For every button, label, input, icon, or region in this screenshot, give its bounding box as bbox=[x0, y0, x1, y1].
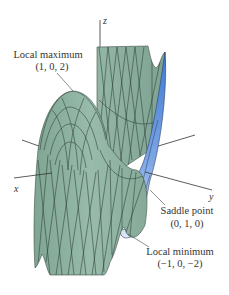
y-axis-label: y bbox=[208, 191, 214, 202]
surface-plot-svg: z x y Local maximum (1, 0, 2) Saddle poi… bbox=[0, 0, 229, 295]
saddle-point-label: Saddle point bbox=[161, 205, 214, 216]
y-axis-back-line bbox=[155, 135, 195, 147]
local-maximum-label: Local maximum bbox=[13, 49, 82, 60]
x-axis-label: x bbox=[13, 183, 19, 194]
saddle-point-leader-line bbox=[150, 190, 165, 205]
local-minimum-coords: (−1, 0, −2) bbox=[157, 258, 203, 270]
local-maximum-coords: (1, 0, 2) bbox=[35, 61, 69, 73]
saddle-point-coords: (0, 1, 0) bbox=[170, 218, 204, 230]
z-axis-label: z bbox=[102, 15, 107, 26]
local-maximum-leader-line bbox=[57, 73, 73, 91]
local-minimum-label: Local minimum bbox=[146, 246, 213, 257]
y-axis-front-line bbox=[145, 172, 212, 190]
surface-plot-figure: z x y Local maximum (1, 0, 2) Saddle poi… bbox=[0, 0, 229, 295]
